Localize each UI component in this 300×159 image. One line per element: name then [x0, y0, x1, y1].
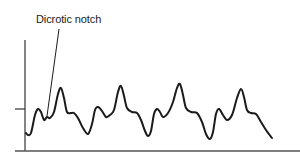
pressure-waveform [26, 84, 272, 139]
waveform-diagram [0, 0, 300, 159]
annotation-leader-line [47, 29, 59, 116]
